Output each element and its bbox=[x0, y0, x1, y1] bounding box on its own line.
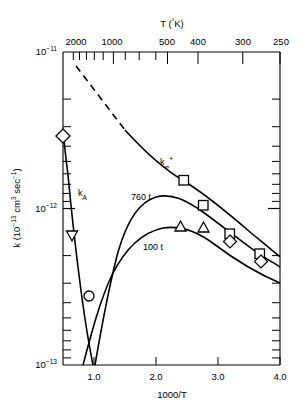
marker-square-k-infinity-2 bbox=[199, 201, 209, 211]
label-760-torr: 760 t bbox=[131, 192, 152, 202]
top-tick-label-250: 250 bbox=[273, 36, 289, 47]
marker-square-k-infinity-1 bbox=[179, 176, 189, 186]
top-tick-label-300: 300 bbox=[235, 36, 251, 47]
top-tick-label-2000: 2000 bbox=[65, 36, 86, 47]
bottom-axis-title: 1000/T bbox=[157, 389, 187, 400]
top-tick-label-1000: 1000 bbox=[101, 36, 122, 47]
marker-circle-k-A bbox=[84, 291, 94, 301]
top-tick-label-500: 500 bbox=[159, 36, 175, 47]
top-tick-label-400: 400 bbox=[190, 36, 206, 47]
x-tick-label-4: 4.0 bbox=[273, 371, 286, 382]
x-tick-label-3: 3.0 bbox=[211, 371, 224, 382]
x-tick-label-2: 2.0 bbox=[149, 371, 162, 382]
arrhenius-plot: T (°K) 2000 1000 500 400 300 250 bbox=[0, 0, 303, 419]
x-tick-label-1: 1.0 bbox=[87, 371, 100, 382]
figure-container: T (°K) 2000 1000 500 400 300 250 bbox=[0, 0, 303, 419]
y-axis-title: k (10−13 cm3 sec−1) bbox=[10, 168, 22, 247]
label-100-torr: 100 t bbox=[143, 242, 164, 252]
